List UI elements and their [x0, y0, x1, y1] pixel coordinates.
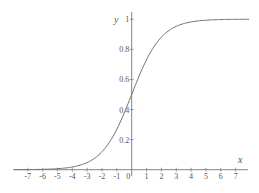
ticks: -7-6-5-4-3-2-1012345670.20.40.60.81 — [24, 15, 237, 181]
x-axis-label: x — [237, 154, 243, 165]
x-tick-label: 4 — [189, 172, 193, 181]
x-tick-label: -5 — [54, 172, 61, 181]
x-tick-label: 6 — [219, 172, 223, 181]
x-tick-label: -7 — [24, 172, 31, 181]
y-axis-label: y — [113, 14, 119, 25]
x-tick-label: -2 — [99, 172, 106, 181]
y-tick-label: 1 — [125, 15, 129, 24]
x-tick-label: -4 — [69, 172, 76, 181]
x-tick-label: 3 — [174, 172, 178, 181]
y-tick-label: 0.8 — [119, 45, 129, 54]
y-tick-label: 0.6 — [119, 75, 129, 84]
x-tick-label: 5 — [204, 172, 208, 181]
y-tick-label: 0.2 — [119, 136, 129, 145]
axes — [13, 12, 248, 176]
x-tick-label: 2 — [159, 172, 163, 181]
sigmoid-chart: -7-6-5-4-3-2-1012345670.20.40.60.81 x y — [0, 0, 259, 193]
x-tick-label: 7 — [234, 172, 238, 181]
x-tick-label: -1 — [114, 172, 121, 181]
x-tick-label: 0 — [126, 172, 130, 181]
x-tick-label: 1 — [145, 172, 149, 181]
x-tick-label: -6 — [39, 172, 46, 181]
x-tick-label: -3 — [84, 172, 91, 181]
